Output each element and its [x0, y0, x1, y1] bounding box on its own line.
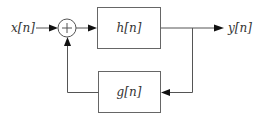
block-diagram: x[n] h[n] y[n] g[n]	[0, 0, 258, 119]
forward-arrow	[76, 25, 97, 32]
feedback-path-left	[64, 37, 99, 93]
feedback-block-label: g[n]	[117, 85, 142, 99]
feedback-block-g: g[n]	[99, 72, 161, 113]
summing-junction	[58, 19, 76, 37]
input-label: x[n]	[11, 21, 35, 35]
input-arrow	[36, 25, 58, 32]
output-label: y[n]	[227, 21, 252, 35]
forward-block-label: h[n]	[117, 21, 142, 35]
feedback-path-right	[161, 28, 193, 96]
forward-block-h: h[n]	[98, 8, 161, 49]
